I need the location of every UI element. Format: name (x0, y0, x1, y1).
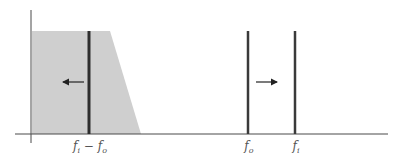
label-sub-o: o (102, 146, 107, 155)
label-minus: − (80, 139, 98, 153)
label-fo: fo (244, 139, 253, 155)
spectrum-diagram (0, 0, 403, 158)
label-sub-o: o (249, 146, 254, 155)
shaded-passband-region (32, 31, 141, 134)
label-sub-i: i (297, 146, 300, 155)
label-fi-minus-fo: fi − fo (73, 139, 107, 155)
label-fi: fi (292, 139, 299, 155)
